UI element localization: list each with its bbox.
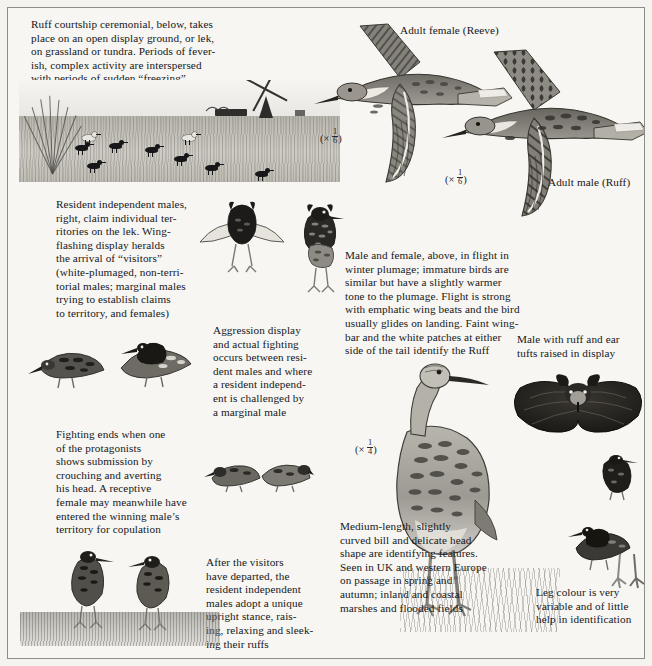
reed-clump [29, 104, 75, 174]
caption-ruff-ear-tufts: Male with ruff and ear tufts raised in d… [517, 333, 645, 360]
windmill [251, 86, 295, 118]
lek-landscape-figure [19, 80, 340, 182]
figure-crouching-pair [204, 444, 314, 494]
caption-intro: Ruff courtship ceremonial, below, takes … [31, 18, 331, 86]
scale-female-flight: (× 16) [320, 128, 342, 145]
caption-aggression: Aggression display and actual fighting o… [213, 324, 363, 419]
figure-wing-flashing [198, 198, 284, 280]
far-shed [295, 110, 305, 116]
ground-grass-left [20, 612, 220, 646]
illustration-plate: Ruff courtship ceremonial, below, takes … [7, 7, 645, 659]
windmill-tower [259, 96, 273, 118]
figure-ruffed-male [294, 200, 346, 296]
scale-standing: (× 14) [355, 439, 377, 456]
distant-flying-bird [205, 104, 231, 114]
caption-after-visitors: After the visitors have departed, the re… [206, 556, 356, 651]
caption-adult-female: Adult female (Reeve) [400, 24, 590, 38]
scale-male-flight: (× 16) [445, 169, 467, 186]
field-guide-page: Ruff courtship ceremonial, below, takes … [0, 0, 652, 666]
figure-fighting-male-left [26, 338, 106, 390]
figure-small-ruff-a [594, 448, 640, 502]
caption-identification: Medium-length, slightly curved bill and … [340, 520, 530, 615]
caption-adult-male: Adult male (Ruff) [548, 176, 645, 190]
caption-leg-colour: Leg colour is very variable and of littl… [536, 586, 645, 627]
figure-flying-male [438, 48, 645, 218]
figure-fighting-male-right [113, 334, 197, 390]
